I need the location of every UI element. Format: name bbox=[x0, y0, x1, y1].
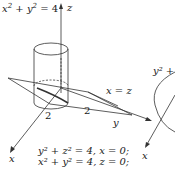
diagram-canvas: x2 + y2 = 4 z y x x = z 2 2 y² + z² = 4,… bbox=[0, 0, 175, 169]
plane-x-eq-z bbox=[8, 78, 132, 115]
right-partial-circle bbox=[154, 72, 175, 132]
cylinder-equation-label: x2 + y2 = 4 bbox=[2, 4, 58, 14]
y-axis-label: y bbox=[113, 118, 119, 128]
y-axis-arrow-icon bbox=[145, 117, 152, 121]
z-axis-arrow-icon bbox=[59, 3, 63, 9]
right-partial-arrow-icon bbox=[145, 142, 150, 148]
cylinder-top-ellipse bbox=[34, 43, 68, 55]
equation-line-2: x² + y² = 4, z = 0; bbox=[38, 157, 129, 167]
equation-line-1: y² + z² = 4, x = 0; bbox=[38, 146, 129, 156]
y-tick-label: 2 bbox=[84, 106, 90, 116]
diagram-svg bbox=[0, 0, 175, 169]
intersection-curve bbox=[37, 88, 68, 103]
x-tick-label: 2 bbox=[45, 111, 51, 121]
right-partial-label: y² + bbox=[153, 66, 174, 76]
plane-label: x = z bbox=[106, 86, 132, 96]
cylinder-base-back-dashed bbox=[34, 80, 68, 86]
x-axis-label: x bbox=[9, 154, 15, 164]
x-axis bbox=[12, 88, 61, 150]
z-axis-label: z bbox=[67, 3, 72, 13]
right-partial-axis-label: x bbox=[142, 151, 148, 161]
